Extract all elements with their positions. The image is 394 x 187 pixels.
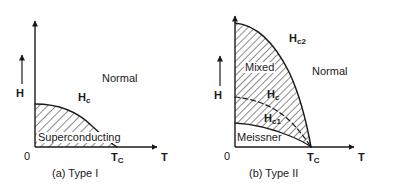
region-label-normal: Normal [102, 73, 137, 84]
caption-type-i: (a) Type I [52, 168, 98, 179]
caption-type-ii: (b) Type II [249, 168, 298, 179]
region-label-superconducting: Superconducting [37, 132, 122, 143]
axis-label-t: T [358, 152, 365, 163]
curve-label-hc: Hc [78, 92, 90, 103]
curve-label-hc2: Hc2 [289, 33, 306, 44]
panel-type-i: H T 0 TC Hc Normal Superconducting (a) T… [0, 0, 197, 187]
curve-label-hc: Hc [267, 89, 279, 100]
region-label-meissner: Meissner [237, 132, 282, 143]
curve-label-hc1: Hc1 [264, 113, 281, 124]
axis-label-h: H [16, 88, 24, 99]
axis-label-t: T [161, 152, 168, 163]
origin-label: 0 [224, 151, 230, 162]
figure-superconductor-phase-diagrams: H T 0 TC Hc Normal Superconducting (a) T… [0, 0, 394, 187]
tick-label-tc: TC [111, 152, 124, 163]
region-label-normal: Normal [312, 66, 347, 77]
axis-label-h: H [214, 90, 222, 101]
origin-label: 0 [24, 151, 30, 162]
region-label-mixed: Mixed [244, 62, 275, 73]
panel-type-ii: H T 0 TC Hc2 Hc Hc1 Normal Mixed Meissne… [197, 0, 394, 187]
tick-label-tc: TC [307, 152, 320, 163]
